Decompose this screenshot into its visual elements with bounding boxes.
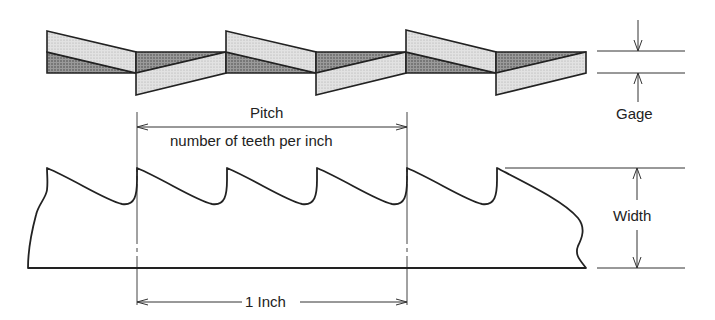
pitch-description-label: number of teeth per inch — [170, 132, 333, 149]
tooth-set-profile — [47, 30, 586, 95]
width-dimension — [505, 168, 685, 268]
saw-blade-diagram — [0, 0, 715, 320]
blade-side-profile — [28, 168, 586, 268]
pitch-dimension-arrow — [137, 124, 407, 130]
inch-label: 1 Inch — [245, 293, 286, 310]
width-label: Width — [613, 207, 651, 224]
gage-dimension — [597, 20, 685, 102]
gage-label: Gage — [616, 105, 653, 122]
pitch-label: Pitch — [250, 104, 283, 121]
